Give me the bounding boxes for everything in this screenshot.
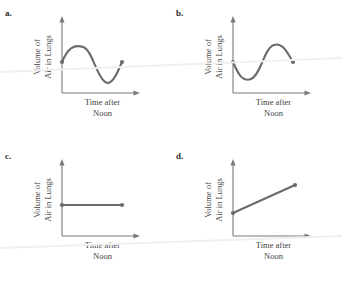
panel-d-x-axis-label: Time after Noon: [226, 240, 321, 262]
x-label-line-2: Noon: [226, 251, 321, 262]
x-axis-arrowhead: [305, 90, 312, 95]
panel-b: b. Volume of Air in Lungs Time after Noo…: [171, 0, 342, 143]
x-label-line-2: Noon: [226, 108, 321, 119]
y-axis-arrowhead: [59, 16, 64, 23]
panel-a-start-point: [60, 60, 64, 64]
panel-a-x-axis-label: Time after Noon: [55, 97, 150, 119]
y-axis-arrowhead: [59, 159, 64, 166]
y-axis-arrowhead: [230, 159, 235, 166]
x-label-line-2: Noon: [55, 251, 150, 262]
panel-d-start-point: [231, 211, 235, 215]
panel-b-curve: [233, 45, 293, 80]
panel-c-start-point: [60, 203, 64, 207]
panel-a-curve: [62, 46, 122, 83]
panel-c-x-axis-label: Time after Noon: [55, 240, 150, 262]
panel-d-curve: [233, 185, 295, 213]
y-axis-arrowhead: [230, 16, 235, 23]
figure-sheet: a. Volume of Air in Lungs Time after Noo…: [0, 0, 342, 286]
panel-c-end-point: [120, 203, 124, 207]
x-label-line-1: Time after: [256, 240, 291, 250]
x-label-line-1: Time after: [85, 240, 120, 250]
panel-b-end-point: [291, 60, 295, 64]
panel-b-start-point: [231, 60, 235, 64]
panel-c: c. Volume of Air in Lungs Time after Noo…: [0, 143, 171, 286]
panel-a-end-point: [120, 60, 124, 64]
panel-b-x-axis-label: Time after Noon: [226, 97, 321, 119]
x-axis-arrowhead: [305, 233, 312, 238]
x-label-line-2: Noon: [55, 108, 150, 119]
panel-b-plot: [171, 0, 342, 143]
x-axis-arrowhead: [134, 233, 141, 238]
panel-a: a. Volume of Air in Lungs Time after Noo…: [0, 0, 171, 143]
panel-d-plot: [171, 143, 342, 286]
panel-a-plot: [0, 0, 171, 143]
x-label-line-1: Time after: [256, 97, 291, 107]
panel-d: d. Volume of Air in Lungs Time after Noo…: [171, 143, 342, 286]
panel-c-plot: [0, 143, 171, 286]
panel-d-end-point: [293, 183, 297, 187]
x-axis-arrowhead: [134, 90, 141, 95]
x-label-line-1: Time after: [85, 97, 120, 107]
